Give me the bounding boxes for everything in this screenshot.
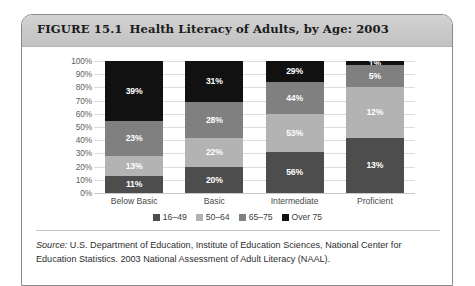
legend-swatch-icon bbox=[282, 214, 289, 221]
source-text: U.S. Department of Education, Institute … bbox=[36, 240, 401, 264]
y-axis-tick: 50% bbox=[76, 122, 92, 132]
legend-swatch-icon bbox=[239, 214, 246, 221]
bar-segment: 28% bbox=[185, 102, 243, 139]
bar-column: 31%28%22%20% bbox=[174, 61, 254, 193]
legend-item[interactable]: Over 75 bbox=[282, 212, 323, 222]
bar-column: 1%5%12%13% bbox=[335, 61, 415, 193]
figure-title-text: Health Literacy of Adults, by Age: 2003 bbox=[130, 22, 389, 36]
x-axis-labels: Below BasicBasicIntermediateProficient bbox=[94, 196, 415, 206]
y-axis-tick: 0% bbox=[80, 188, 92, 198]
y-axis-tick: 90% bbox=[76, 69, 92, 79]
legend-label: 16–49 bbox=[163, 212, 187, 222]
bar-segment: 22% bbox=[185, 138, 243, 167]
bar-segment: 13% bbox=[105, 156, 163, 176]
gridline bbox=[94, 193, 415, 194]
y-axis-tick: 60% bbox=[76, 109, 92, 119]
bar-segment: 12% bbox=[346, 87, 404, 138]
bar-segment: 5% bbox=[346, 65, 404, 86]
legend-swatch-icon bbox=[196, 214, 203, 221]
bar-column: 39%23%13%11% bbox=[94, 61, 174, 193]
y-axis-tick: 40% bbox=[76, 135, 92, 145]
bar-segment: 13% bbox=[346, 138, 404, 193]
y-axis-tick: 70% bbox=[76, 96, 92, 106]
source-divider bbox=[36, 230, 440, 231]
x-axis-tick: Basic bbox=[174, 196, 254, 206]
figure-body: 100%90%80%70%60%50%40%30%20%10%0% 39%23%… bbox=[22, 47, 453, 286]
figure-title-band: FIGURE 15.1Health Literacy of Adults, by… bbox=[22, 15, 452, 47]
bar-segment: 39% bbox=[105, 61, 163, 121]
bar-group: 39%23%13%11%31%28%22%20%29%44%53%56%1%5%… bbox=[94, 61, 415, 193]
x-axis-tick: Intermediate bbox=[255, 196, 335, 206]
bar-segment: 53% bbox=[266, 114, 324, 152]
legend-label: Over 75 bbox=[292, 212, 323, 222]
legend-item[interactable]: 50–64 bbox=[196, 212, 230, 222]
chart-legend: 16–4950–6465–75Over 75 bbox=[60, 212, 415, 222]
figure-number: FIGURE 15.1 bbox=[37, 22, 123, 36]
bar-segment: 44% bbox=[266, 82, 324, 114]
stacked-bar-chart: 100%90%80%70%60%50%40%30%20%10%0% 39%23%… bbox=[60, 61, 415, 193]
y-axis-tick: 30% bbox=[76, 148, 92, 158]
stacked-bar[interactable]: 1%5%12%13% bbox=[346, 61, 404, 193]
y-axis-tick: 20% bbox=[76, 162, 92, 172]
legend-item[interactable]: 16–49 bbox=[153, 212, 187, 222]
legend-item[interactable]: 65–75 bbox=[239, 212, 273, 222]
bar-segment: 29% bbox=[266, 61, 324, 82]
stacked-bar[interactable]: 29%44%53%56% bbox=[266, 61, 324, 193]
y-axis-tick: 80% bbox=[76, 82, 92, 92]
bar-column: 29%44%53%56% bbox=[255, 61, 335, 193]
x-axis-tick: Below Basic bbox=[94, 196, 174, 206]
legend-label: 65–75 bbox=[249, 212, 273, 222]
stacked-bar[interactable]: 31%28%22%20% bbox=[185, 61, 243, 193]
bar-segment: 56% bbox=[266, 152, 324, 193]
bar-segment: 11% bbox=[105, 176, 163, 193]
y-axis: 100%90%80%70%60%50%40%30%20%10%0% bbox=[60, 61, 92, 193]
y-axis-tick: 10% bbox=[76, 175, 92, 185]
source-note: Source: U.S. Department of Education, In… bbox=[36, 239, 436, 266]
legend-label: 50–64 bbox=[206, 212, 230, 222]
source-label: Source: bbox=[36, 240, 67, 250]
page-title: FIGURE 15.1Health Literacy of Adults, by… bbox=[37, 22, 389, 36]
x-axis-tick: Proficient bbox=[335, 196, 415, 206]
bar-segment: 23% bbox=[105, 121, 163, 156]
legend-swatch-icon bbox=[153, 214, 160, 221]
stacked-bar[interactable]: 39%23%13%11% bbox=[105, 61, 163, 193]
bar-segment: 31% bbox=[185, 61, 243, 102]
bar-segment: 20% bbox=[185, 167, 243, 193]
figure-card: FIGURE 15.1Health Literacy of Adults, by… bbox=[21, 14, 453, 286]
y-axis-tick: 100% bbox=[71, 56, 92, 66]
